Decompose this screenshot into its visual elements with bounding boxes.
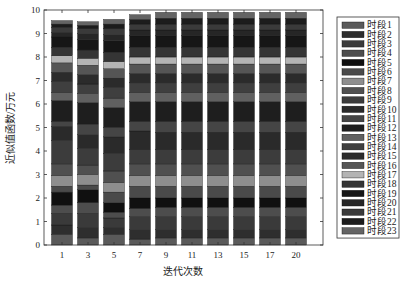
legend-label: 时段15 [367, 150, 397, 161]
bar-segment [104, 192, 125, 203]
bar-segment [182, 12, 203, 18]
bar-segment [208, 132, 229, 150]
bar-segment [130, 57, 151, 64]
bar-segment [52, 28, 73, 33]
bar-segment [234, 150, 255, 164]
bar-segment [130, 122, 151, 131]
bar-segment [156, 73, 177, 82]
bar-segment [104, 212, 125, 218]
legend-label: 时段4 [367, 47, 392, 58]
bar-segment [130, 102, 151, 122]
bar-segment [104, 108, 125, 128]
bar-segment [130, 30, 151, 36]
bar-stack [286, 12, 307, 245]
bar-segment [104, 218, 125, 227]
bar-segment [156, 176, 177, 187]
y-tick-label: 2 [36, 193, 41, 203]
bar-segment [52, 186, 73, 192]
bar-segment [182, 73, 203, 82]
bar-stack [260, 12, 281, 245]
bar-segment [156, 217, 177, 230]
bar-stack [208, 12, 229, 245]
bar-segment [182, 198, 203, 207]
bar-segment [52, 122, 73, 127]
legend-swatch [342, 59, 364, 65]
bar-segment [286, 207, 307, 216]
bar-segment [52, 126, 73, 140]
bar-segment [286, 92, 307, 101]
bar-segment [234, 30, 255, 36]
bar-segment [182, 207, 203, 216]
bar-segment [260, 102, 281, 122]
bar-segment [234, 217, 255, 230]
bar-segment [260, 12, 281, 18]
legend-swatch [342, 190, 364, 196]
legend-swatch [342, 69, 364, 75]
bar-segment [208, 36, 229, 48]
bar-segment [286, 48, 307, 57]
bar-segment [208, 30, 229, 36]
bar-segment [234, 24, 255, 30]
bar-segment [156, 186, 177, 198]
y-tick-label: 0 [36, 240, 41, 250]
bar-segment [234, 186, 255, 198]
y-tick-label: 10 [31, 5, 41, 15]
stacked-bar-chart: 012345678910 135791113151720 迭代次数 近似值函数/… [0, 0, 402, 283]
legend-label: 时段13 [367, 132, 397, 143]
legend-label: 时段12 [367, 122, 397, 133]
bar-segment [78, 227, 99, 238]
bar-stack [234, 12, 255, 245]
bar-segment [156, 64, 177, 73]
bar-segment [208, 217, 229, 230]
bar-segment [208, 18, 229, 24]
bar-segment [130, 131, 151, 150]
bar-stack [104, 19, 125, 245]
bar-segment [52, 72, 73, 81]
legend-label: 时段2 [367, 29, 392, 40]
y-tick-label: 5 [36, 123, 41, 133]
bar-segment [208, 57, 229, 64]
bar-segment [78, 75, 99, 84]
bar-stack [78, 22, 99, 245]
x-tick-label: 20 [292, 250, 302, 260]
bar-segment [182, 230, 203, 238]
bar-segment [130, 186, 151, 198]
bar-segment [156, 207, 177, 216]
bar-segment [286, 198, 307, 207]
bar-segment [208, 73, 229, 82]
bar-segment [208, 48, 229, 57]
bar-segment [208, 164, 229, 176]
bar-segment [182, 83, 203, 92]
bar-segment [78, 185, 99, 190]
x-axis-label: 迭代次数 [163, 265, 203, 277]
bar-segment [260, 92, 281, 101]
bar-segment [104, 24, 125, 29]
bar-segment [52, 21, 73, 25]
bar-segment [208, 24, 229, 30]
bar-segment [286, 18, 307, 24]
y-tick-label: 9 [36, 29, 41, 39]
bar-segment [234, 176, 255, 187]
bar-segment [156, 30, 177, 36]
bar-segment [260, 207, 281, 216]
bar-segment [208, 102, 229, 122]
bar-segment [234, 198, 255, 207]
y-tick-label: 4 [36, 146, 41, 156]
bar-segment [182, 30, 203, 36]
bar-segment [234, 57, 255, 64]
bar-segment [182, 164, 203, 176]
legend-swatch [342, 106, 364, 112]
bar-segment [104, 41, 125, 53]
bar-segment [156, 132, 177, 150]
bar-stack [52, 21, 73, 245]
bar-segment [104, 69, 125, 78]
bar-segment [156, 230, 177, 238]
legend-label: 时段22 [367, 216, 397, 227]
bar-segment [260, 217, 281, 230]
bar-stack [130, 15, 151, 245]
bar-segment [234, 230, 255, 238]
legend-label: 时段6 [367, 66, 392, 77]
bar-segment [260, 150, 281, 164]
legend-swatch [342, 87, 364, 93]
bar-segment [182, 92, 203, 101]
